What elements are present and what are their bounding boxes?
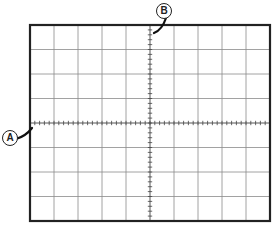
callout-label-b: B	[156, 3, 172, 19]
graticule-diagram	[0, 0, 279, 233]
callout-label-a: A	[2, 130, 18, 146]
